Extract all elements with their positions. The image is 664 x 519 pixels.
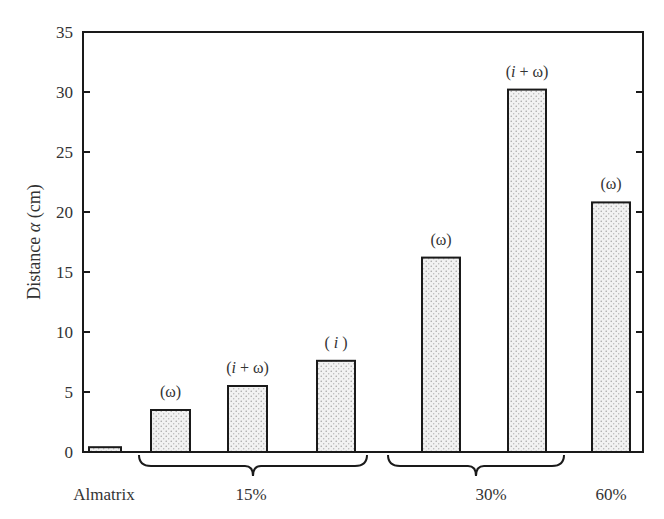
y-tick-label: 5: [65, 383, 74, 402]
bar: [151, 410, 190, 452]
bar-chart: Distance α (cm) 05101520253035 (ω)(i + ω…: [0, 0, 664, 519]
y-tick-label: 30: [56, 83, 73, 102]
y-tick-label: 20: [56, 203, 73, 222]
bar-annotation: (ω): [430, 231, 451, 249]
bar: [317, 361, 355, 452]
x-category-label: 15%: [235, 485, 266, 504]
x-category-label: 30%: [475, 485, 506, 504]
bar: [508, 90, 546, 452]
bars: (ω)(i + ω)( i )(ω)(i + ω)(ω): [89, 63, 630, 452]
x-category-label: 60%: [595, 485, 626, 504]
bar: [422, 258, 460, 452]
curly-brace: [388, 455, 564, 476]
category-braces: [139, 455, 564, 476]
y-tick-label: 10: [56, 323, 73, 342]
y-axis-title: Distance α (cm): [24, 184, 45, 299]
bar: [592, 202, 630, 452]
x-category-label: Almatrix: [73, 485, 135, 504]
bar-annotation: ( i ): [324, 334, 347, 352]
category-labels: Almatrix15%30%60%: [73, 485, 626, 504]
y-tick-label: 15: [56, 263, 73, 282]
bar-annotation: (i + ω): [226, 359, 269, 377]
bar: [228, 386, 267, 452]
y-tick-label: 35: [56, 23, 73, 42]
bar-annotation: (i + ω): [506, 63, 549, 81]
curly-brace: [139, 455, 367, 476]
y-tick-label: 25: [56, 143, 73, 162]
bar-annotation: (ω): [160, 383, 181, 401]
y-axis-label: Distance α (cm): [24, 184, 45, 299]
y-tick-label: 0: [65, 443, 74, 462]
bar-annotation: (ω): [600, 175, 621, 193]
